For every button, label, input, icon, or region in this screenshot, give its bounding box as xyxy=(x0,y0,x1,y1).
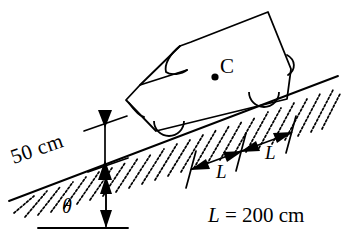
length-value-annotation: L = 200 cm xyxy=(208,205,304,226)
incline-angle-label: θ xyxy=(62,196,72,216)
rear-window-arc xyxy=(287,55,294,75)
wheelbase-label-front: L xyxy=(216,162,227,181)
car-body-group xyxy=(126,12,294,131)
angle-arrow-down xyxy=(100,210,112,228)
windshield-arc xyxy=(166,46,187,74)
car-body-outline xyxy=(126,12,291,131)
center-of-mass-dot xyxy=(211,73,218,80)
wheelbase-label-rear: L xyxy=(265,143,276,162)
car-wheels-group xyxy=(154,92,279,136)
wheelbase-arrowheads xyxy=(190,132,293,170)
center-of-mass-label: C xyxy=(220,56,234,77)
physics-diagram-canvas: 50 cm θ C L L L = 200 cm xyxy=(0,0,343,242)
length-value-text: = 200 cm xyxy=(220,203,305,227)
length-value-symbol: L xyxy=(208,203,220,227)
